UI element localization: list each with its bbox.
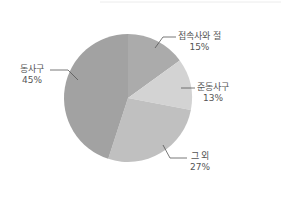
label-verb-phrase: 동사구 45% [20,64,44,86]
pie-chart [0,0,281,197]
label-others: 그 외 27% [190,151,210,173]
label-conjunction-clause: 접속사와 절 15% [178,31,221,53]
label-quasi-verb-phrase: 준동사구 13% [197,82,229,104]
